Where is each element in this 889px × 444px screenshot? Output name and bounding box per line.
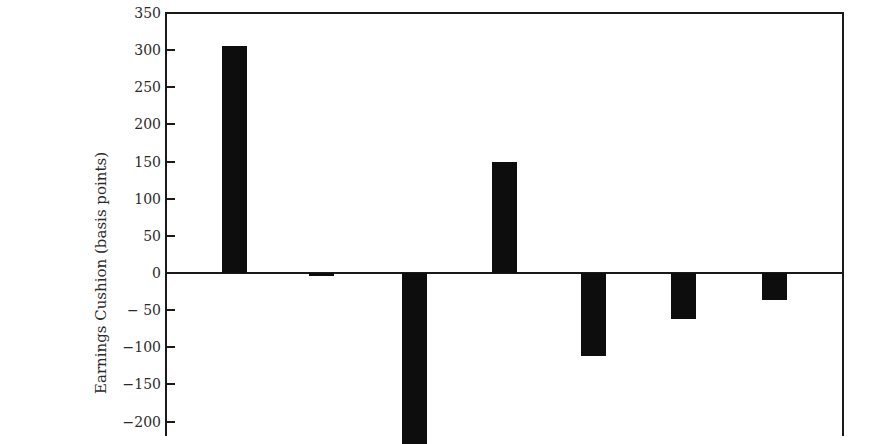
y-tick-label: − 50 [127, 303, 161, 317]
bar-3 [402, 273, 427, 444]
y-tick-mark [166, 49, 175, 51]
y-tick-mark [166, 235, 175, 237]
y-axis-label: Earnings Cushion (basis points) [92, 152, 110, 394]
y-tick-label: 350 [134, 6, 161, 20]
y-tick-label: −150 [123, 377, 161, 391]
y-tick-mark [166, 86, 175, 88]
y-tick-mark [166, 123, 175, 125]
y-tick-label: 200 [134, 117, 161, 131]
y-tick-mark [166, 198, 175, 200]
y-tick-mark [166, 383, 175, 385]
y-tick-mark [166, 161, 175, 163]
bar-6 [671, 273, 696, 319]
plot-frame-top [166, 12, 844, 14]
y-tick-label: 150 [134, 155, 161, 169]
y-tick-label: −200 [123, 415, 161, 429]
y-tick-label: 50 [143, 229, 161, 243]
y-tick-label: 0 [152, 266, 161, 280]
y-tick-label: 300 [134, 43, 161, 57]
bar-4 [492, 162, 517, 273]
y-tick-label: 100 [134, 192, 161, 206]
plot-frame-right [842, 12, 844, 436]
y-tick-mark [166, 421, 175, 423]
bar-2 [309, 273, 334, 276]
bar-1 [222, 46, 247, 273]
y-tick-label: 250 [134, 80, 161, 94]
bar-5 [581, 273, 606, 356]
y-tick-mark [166, 346, 175, 348]
y-axis-line [165, 12, 167, 436]
bar-7 [762, 273, 787, 300]
y-tick-mark [166, 309, 175, 311]
y-tick-label: −100 [123, 340, 161, 354]
